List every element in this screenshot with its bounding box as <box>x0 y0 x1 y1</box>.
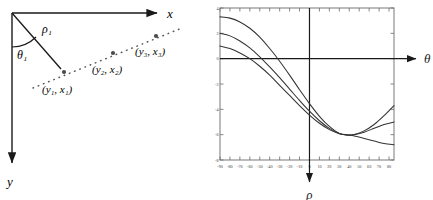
curve-point-3 <box>220 17 394 135</box>
y-tick-label: -2 <box>215 82 218 87</box>
x-tick-label: 30 <box>337 164 341 169</box>
point-1-marker <box>62 70 66 74</box>
theta-angle-arc <box>12 37 36 47</box>
collinear-dotted-line <box>33 28 182 88</box>
y-tick-label: 4 <box>216 6 218 11</box>
rho-label: ρ₁ <box>41 22 52 36</box>
x-tick-label: -70 <box>237 164 242 169</box>
x-tick-label: -60 <box>247 164 252 169</box>
y-tick-label: 0 <box>216 56 218 61</box>
x-tick-label: 70 <box>377 164 381 169</box>
theta-label: θ₁ <box>17 48 27 62</box>
x-tick-label: -30 <box>277 164 282 169</box>
x-tick-label: -50 <box>257 164 262 169</box>
hough-curves-chart: -90-80-70-60-50-40-30-20-100102030405060… <box>212 0 433 200</box>
parameter-space-plot: -90-80-70-60-50-40-30-20-100102030405060… <box>212 0 433 200</box>
curve-point-1 <box>220 46 394 135</box>
curve-point-2 <box>220 33 394 144</box>
image-space-diagram: x y ρ₁ θ₁ (y₁, x₁) (y₂, x₂) (y₃, x₃) <box>0 0 212 200</box>
rho-axis-label: ρ <box>305 187 312 200</box>
point-2-label: (y₂, x₂) <box>92 63 123 76</box>
x-tick-label: -10 <box>297 164 302 169</box>
x-tick-label: 60 <box>367 164 371 169</box>
x-tick-label: 80 <box>387 164 391 169</box>
theta-axis-label: θ <box>424 51 431 66</box>
x-tick-label: -40 <box>267 164 272 169</box>
x-tick-label: 10 <box>317 164 321 169</box>
left-diagram-svg: x y ρ₁ θ₁ (y₁, x₁) (y₂, x₂) (y₃, x₃) <box>0 0 212 200</box>
x-tick-label: -90 <box>217 164 222 169</box>
plot-frame <box>220 8 394 160</box>
point-2-marker <box>111 51 115 55</box>
x-tick-label: 50 <box>357 164 361 169</box>
y-axis-label: y <box>5 174 13 189</box>
x-tick-label: 20 <box>327 164 331 169</box>
point-3-marker <box>154 34 158 38</box>
y-tick-label: -4 <box>215 107 218 112</box>
x-tick-label: -80 <box>227 164 232 169</box>
point-1-label: (y₁, x₁) <box>42 83 73 96</box>
x-axis-label: x <box>166 6 173 21</box>
y-tick-label: -8 <box>215 158 218 163</box>
x-tick-label: 40 <box>347 164 351 169</box>
y-tick-label: -6 <box>215 132 218 137</box>
x-tick-label: -20 <box>287 164 292 169</box>
y-tick-label: 2 <box>216 31 218 36</box>
point-3-label: (y₃, x₃) <box>135 45 166 58</box>
figure-root: x y ρ₁ θ₁ (y₁, x₁) (y₂, x₂) (y₃, x₃) -90… <box>0 0 433 200</box>
